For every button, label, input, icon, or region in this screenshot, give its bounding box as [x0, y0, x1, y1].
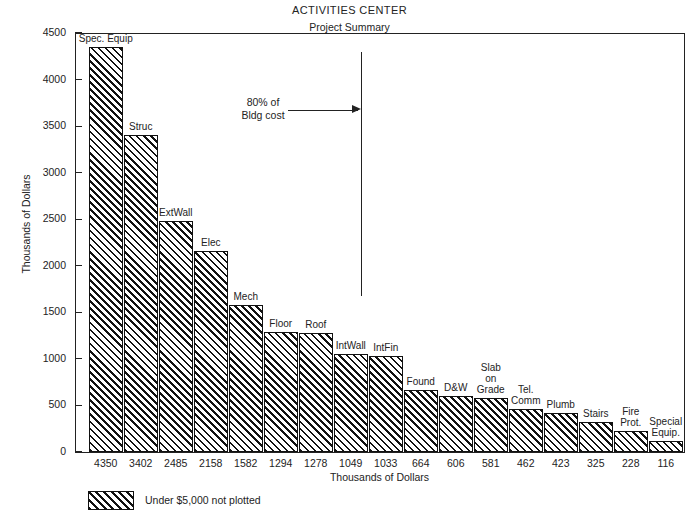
annotation-80-percent-label: 80% of Bldg cost	[218, 96, 308, 121]
bar[interactable]	[124, 135, 158, 452]
y-axis-tick-label: 4500	[0, 26, 66, 38]
bar[interactable]	[649, 441, 683, 452]
bar-category-label-line: Equip.	[630, 427, 699, 438]
legend-hatch-swatch	[88, 491, 134, 510]
legend-label: Under $5,000 not plotted	[145, 494, 261, 506]
bar[interactable]	[89, 47, 123, 452]
bar-value-label: 116	[642, 457, 690, 469]
bar[interactable]	[194, 251, 228, 452]
bar-category-label: SpecialEquip.	[630, 416, 699, 438]
y-axis-tick	[75, 126, 82, 127]
bar-category-label: Elec	[175, 237, 247, 248]
y-axis-title: Thousands of Dollars	[20, 154, 32, 294]
bar-category-label: Roof	[280, 319, 352, 330]
bar[interactable]	[159, 221, 193, 452]
annotation-line-2: Bldg cost	[218, 109, 308, 122]
bar-category-label-line: Slab	[455, 362, 527, 373]
y-axis-tick	[75, 172, 82, 173]
bar-category-label-line: ExtWall	[140, 207, 212, 218]
y-axis-tick	[75, 219, 82, 220]
bar-category-label-line: IntFin	[350, 342, 422, 353]
y-axis-tick	[75, 405, 82, 406]
y-axis-tick-label: 2500	[0, 212, 66, 224]
x-axis-title: Thousands of Dollars	[75, 471, 684, 483]
bar-category-label-line: Special	[630, 416, 699, 427]
bar-category-label-line: Roof	[280, 319, 352, 330]
bar-category-label-line: Struc	[105, 121, 177, 132]
bar-category-label-line: Mech	[210, 291, 282, 302]
cumulative-80-percent-line	[361, 52, 362, 296]
annotation-line-1: 80% of	[218, 96, 308, 109]
annotation-arrow-head-icon	[352, 105, 361, 113]
y-axis-tick-label: 3500	[0, 119, 66, 131]
figure-caption	[0, 516, 699, 524]
bar[interactable]	[439, 396, 473, 452]
axis-right-line	[684, 33, 685, 453]
chart-subtitle: Project Summary	[0, 21, 699, 33]
bar-category-label: Spec. Equip	[70, 33, 142, 44]
chart-title: ACTIVITIES CENTER	[0, 4, 699, 16]
bar[interactable]	[264, 332, 298, 452]
bar-category-label-line: Elec	[175, 237, 247, 248]
y-axis-tick-label: 4000	[0, 73, 66, 85]
bar-category-label-line: Fire	[595, 406, 667, 417]
y-axis-tick	[75, 312, 82, 313]
bar[interactable]	[404, 390, 438, 452]
y-axis-tick-label: 1500	[0, 305, 66, 317]
x-axis-line	[75, 452, 685, 453]
bar[interactable]	[509, 409, 543, 452]
bar[interactable]	[334, 354, 368, 452]
y-axis-tick	[75, 265, 82, 266]
y-axis-tick	[75, 79, 82, 80]
y-axis-tick-label: 1000	[0, 352, 66, 364]
bar-category-label-line: Spec. Equip	[70, 33, 142, 44]
bar-category-label: Struc	[105, 121, 177, 132]
axis-top-line	[75, 33, 685, 34]
bar-category-label: ExtWall	[140, 207, 212, 218]
bar[interactable]	[474, 398, 508, 452]
bar[interactable]	[369, 356, 403, 452]
bar-category-label-line: Tel.	[490, 384, 562, 395]
y-axis-tick-label: 3000	[0, 166, 66, 178]
bar-category-label-line: on	[455, 373, 527, 384]
y-axis-tick	[75, 358, 82, 359]
y-axis-line	[75, 33, 76, 453]
y-axis-tick-label: 0	[0, 445, 66, 457]
bar-category-label: IntFin	[350, 342, 422, 353]
y-axis-tick	[75, 451, 82, 452]
y-axis-tick-label: 500	[0, 398, 66, 410]
y-axis-tick-label: 2000	[0, 259, 66, 271]
bar-category-label: Mech	[210, 291, 282, 302]
